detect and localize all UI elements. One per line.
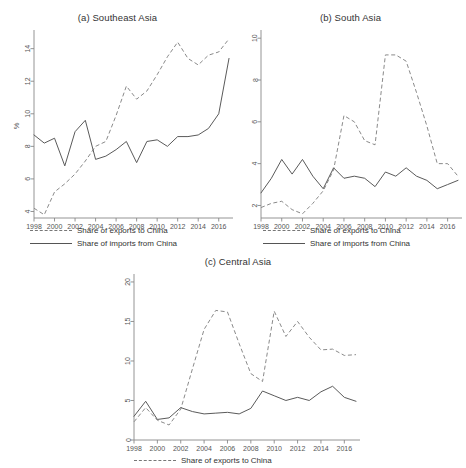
panel-a-title: (a) Southeast Asia [0, 12, 235, 23]
legend-label-exports: Share of exports to China [181, 456, 272, 466]
dashed-line-key-icon [263, 230, 305, 232]
panel-b-plot: 2468101998200020022004200620082010201220… [235, 26, 466, 238]
svg-text:20: 20 [125, 278, 132, 286]
svg-text:14: 14 [25, 45, 32, 53]
svg-text:2016: 2016 [337, 445, 353, 452]
legend-row-exports: Share of exports to China [134, 454, 366, 467]
svg-text:8: 8 [252, 78, 259, 82]
legend-label-imports: Share of imports from China [77, 239, 177, 249]
legend-label-exports: Share of exports to China [310, 226, 401, 236]
solid-line-key-icon [263, 243, 305, 245]
svg-text:0: 0 [125, 438, 132, 442]
panel-a-legend: Share of exports to China Share of impor… [30, 224, 235, 250]
svg-text:8: 8 [25, 144, 32, 148]
dashed-line-key-icon [134, 460, 176, 462]
legend-row-imports: Share of imports from China [30, 237, 235, 250]
panel-a-plot: 4681012141998200020022004200620082010201… [0, 26, 235, 238]
panel-southeast-asia: (a) Southeast Asia 468101214199820002002… [0, 12, 235, 250]
panel-c-title: (c) Central Asia [110, 256, 366, 267]
svg-text:2000: 2000 [150, 445, 166, 452]
legend-label-imports: Share of imports from China [310, 239, 410, 249]
svg-text:5: 5 [125, 398, 132, 402]
panel-b-legend: Share of exports to China Share of impor… [263, 224, 466, 250]
svg-text:2008: 2008 [243, 445, 259, 452]
svg-text:2: 2 [252, 203, 259, 207]
legend-row-exports: Share of exports to China [30, 224, 235, 237]
svg-text:6: 6 [25, 177, 32, 181]
solid-line-key-icon [30, 243, 72, 245]
svg-text:10: 10 [252, 34, 259, 42]
panel-b-title: (b) South Asia [235, 12, 466, 23]
svg-text:%: % [12, 122, 21, 129]
svg-text:2002: 2002 [173, 445, 189, 452]
svg-text:2010: 2010 [266, 445, 282, 452]
svg-text:4: 4 [252, 162, 259, 166]
dashed-line-key-icon [30, 230, 72, 232]
svg-text:2006: 2006 [220, 445, 236, 452]
svg-text:2004: 2004 [196, 445, 212, 452]
panel-c-plot: 0510152019982000200220042006200820102012… [110, 270, 366, 460]
panel-south-asia: (b) South Asia 2468101998200020022004200… [235, 12, 466, 250]
panel-c-legend: Share of exports to China [134, 454, 366, 467]
svg-text:6: 6 [252, 120, 259, 124]
svg-text:15: 15 [125, 317, 132, 325]
legend-row-exports: Share of exports to China [263, 224, 466, 237]
svg-text:1998: 1998 [126, 445, 142, 452]
legend-row-imports: Share of imports from China [263, 237, 466, 250]
legend-label-exports: Share of exports to China [77, 226, 168, 236]
svg-text:10: 10 [125, 357, 132, 365]
svg-text:2012: 2012 [290, 445, 306, 452]
panel-central-asia: (c) Central Asia 05101520199820002002200… [110, 256, 366, 468]
svg-text:4: 4 [25, 209, 32, 213]
svg-text:2014: 2014 [313, 445, 329, 452]
svg-text:10: 10 [25, 110, 32, 118]
svg-text:12: 12 [25, 77, 32, 85]
